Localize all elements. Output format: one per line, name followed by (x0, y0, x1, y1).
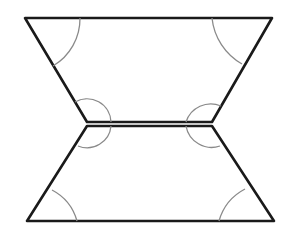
angle-arc-bottom-inner-left (78, 126, 111, 148)
angle-arc-top-right (212, 18, 242, 64)
diagram-canvas (0, 0, 285, 242)
bottom-trapezoid (27, 126, 274, 221)
bottom-trapezoid-outline (27, 126, 274, 221)
top-trapezoid-outline (25, 18, 272, 122)
angle-arc-bottom-right (219, 189, 245, 221)
hourglass-trapezoids-diagram (0, 0, 285, 242)
top-trapezoid (25, 18, 272, 122)
angle-arc-bottom-left (52, 190, 77, 221)
angle-arc-top-left (53, 18, 80, 66)
